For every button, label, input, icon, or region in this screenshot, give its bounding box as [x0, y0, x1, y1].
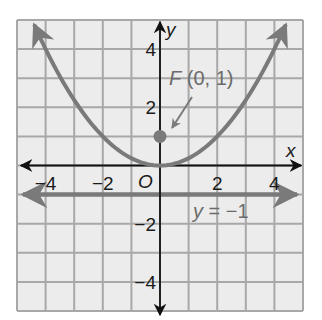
x-axis-label: x [285, 140, 297, 161]
focus-point [154, 130, 167, 143]
y-tick-label: −2 [134, 214, 156, 235]
y-tick-label: 4 [145, 39, 156, 60]
parabola-graph: −4−224 42−2−4 x y O F (0, 1) y = −1 [0, 0, 322, 320]
directrix-label: y = −1 [191, 200, 249, 222]
focus-coords: (0, 1) [181, 67, 233, 89]
focus-label: F (0, 1) [169, 67, 233, 89]
x-tick-label: 4 [269, 173, 280, 194]
directrix-value: = −1 [203, 200, 249, 222]
x-tick-label: −4 [35, 173, 57, 194]
y-tick-label: −4 [134, 272, 156, 293]
origin-label: O [138, 171, 153, 192]
y-axis-label: y [164, 19, 177, 40]
y-tick-label: 2 [145, 97, 156, 118]
x-tick-label: −2 [92, 173, 114, 194]
x-tick-label: 2 [212, 173, 223, 194]
